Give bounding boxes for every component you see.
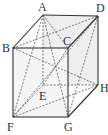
prism-diagram: A D B C E H F G [0,0,108,135]
label-c: C [63,34,71,48]
label-d: D [96,1,105,15]
label-f: F [7,120,14,134]
label-h: H [100,81,108,95]
label-e: E [39,89,46,103]
label-g: G [64,120,73,134]
label-b: B [2,41,10,55]
label-a: A [38,0,47,14]
